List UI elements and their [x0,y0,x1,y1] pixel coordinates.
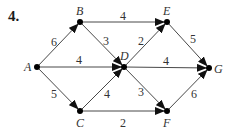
node-g [206,65,212,71]
node-label-c: C [76,116,85,130]
edge-weight-d-f: 3 [138,85,144,99]
edge-weight-a-d: 4 [76,53,82,67]
node-label-g: G [214,62,223,76]
node-b [77,19,83,25]
edge-weight-a-c: 5 [51,87,57,101]
edge-weight-c-d: 4 [104,87,110,101]
node-a [34,64,40,70]
node-label-f: F [162,116,171,130]
graph-diagram: 645434224356 ABCDEFG [0,0,233,135]
edge-d-f [124,67,165,109]
edge-b-d [80,22,122,65]
edge-weight-b-d: 3 [103,34,109,48]
edge-c-d [80,69,122,111]
edge-weight-b-e: 4 [120,9,126,23]
edge-d-e [124,24,165,67]
node-f [164,108,170,114]
edge-a-c [37,67,78,109]
node-d [121,64,127,70]
node-c [77,108,83,114]
edges: 645434224356 [37,9,207,130]
edge-weight-a-b: 6 [51,35,57,49]
edge-e-g [167,22,207,66]
edge-a-b [37,24,78,67]
node-label-e: E [162,4,171,18]
edge-weight-d-g: 4 [163,54,169,68]
edge-weight-c-f: 2 [120,116,126,130]
edge-weight-f-g: 6 [191,87,197,101]
node-label-b: B [76,4,84,18]
node-e [164,19,170,25]
edge-weight-d-e: 2 [138,34,144,48]
edge-weight-e-g: 5 [190,32,196,46]
edge-f-g [167,70,207,111]
node-label-d: D [119,49,129,63]
node-label-a: A [23,60,32,74]
